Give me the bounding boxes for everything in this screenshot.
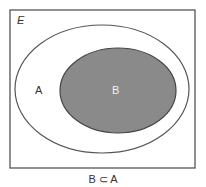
venn-diagram: E A B B ⊂ A bbox=[0, 0, 206, 187]
universe-label: E bbox=[17, 14, 25, 26]
set-a-label: A bbox=[35, 84, 43, 96]
set-b-label: B bbox=[112, 84, 119, 96]
caption: B ⊂ A bbox=[88, 173, 118, 185]
